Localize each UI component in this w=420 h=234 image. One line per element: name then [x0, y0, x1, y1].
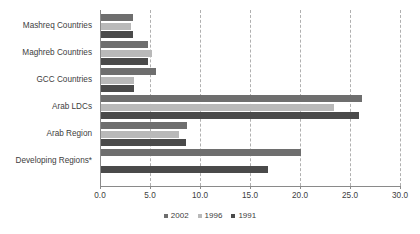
x-tick-label: 0.0: [80, 191, 120, 200]
bar-group: [101, 148, 400, 175]
bar: [101, 131, 179, 138]
x-tick-mark: [200, 186, 201, 189]
bar: [101, 31, 133, 38]
x-tick-label: 30.0: [380, 191, 420, 200]
legend-label: 1991: [238, 212, 256, 220]
plot-area: [100, 10, 400, 186]
category-label: Developing Regions*: [0, 156, 92, 166]
x-tick-label: 15.0: [230, 191, 270, 200]
legend-label: 1996: [205, 212, 223, 220]
bar-group: [101, 40, 400, 67]
legend-swatch-icon: [231, 214, 235, 218]
bar: [101, 85, 134, 92]
category-label: Mashreq Countries: [0, 21, 92, 31]
legend-item[interactable]: 1991: [231, 212, 256, 220]
bar: [101, 122, 187, 129]
x-tick-label: 20.0: [280, 191, 320, 200]
category-label: Arab LDCs: [0, 102, 92, 112]
legend-swatch-icon: [198, 214, 202, 218]
bar: [101, 166, 268, 173]
x-tick-label: 5.0: [130, 191, 170, 200]
gridline: [400, 10, 401, 186]
bar: [101, 58, 148, 65]
bar: [101, 68, 156, 75]
bar: [101, 14, 133, 21]
bar: [101, 23, 131, 30]
x-tick-mark: [300, 186, 301, 189]
bar: [101, 149, 301, 156]
legend-item[interactable]: 1996: [198, 212, 223, 220]
x-tick-mark: [100, 186, 101, 189]
bar: [101, 139, 186, 146]
bar-chart: Mashreq CountriesMaghreb CountriesGCC Co…: [0, 0, 420, 234]
category-label: Maghreb Countries: [0, 48, 92, 58]
bar-group: [101, 121, 400, 148]
bar: [101, 95, 362, 102]
x-tick-mark: [350, 186, 351, 189]
bar: [101, 50, 152, 57]
bar: [101, 104, 334, 111]
legend-label: 2002: [171, 212, 189, 220]
bar-group: [101, 94, 400, 121]
bar: [101, 77, 134, 84]
legend-item[interactable]: 2002: [164, 212, 189, 220]
x-tick-label: 10.0: [180, 191, 220, 200]
category-axis-labels: Mashreq CountriesMaghreb CountriesGCC Co…: [0, 10, 96, 186]
bar-group: [101, 13, 400, 40]
x-tick-mark: [150, 186, 151, 189]
category-label: Arab Region: [0, 129, 92, 139]
legend-swatch-icon: [164, 214, 168, 218]
category-label: GCC Countries: [0, 75, 92, 85]
x-tick-mark: [400, 186, 401, 189]
legend: 200219961991: [0, 212, 420, 220]
x-tick-label: 25.0: [330, 191, 370, 200]
x-tick-mark: [250, 186, 251, 189]
bar-group: [101, 67, 400, 94]
bar: [101, 112, 359, 119]
bar: [101, 41, 148, 48]
